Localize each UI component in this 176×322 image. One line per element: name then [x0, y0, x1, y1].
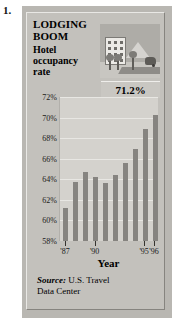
y-axis-labels: 60%62%64%66%68%70%72%58% — [33, 97, 57, 241]
bar — [113, 175, 118, 241]
list-number: 1. — [3, 4, 11, 16]
x-axis-tick — [65, 241, 66, 246]
bar — [153, 115, 158, 242]
value-callout: 71.2% — [101, 81, 160, 98]
source-text: U.S. Travel — [66, 275, 110, 285]
x-axis-tick-label: '90 — [90, 247, 99, 256]
source-note: Source: U.S. Travel Data Center — [37, 275, 159, 298]
y-axis-tick-label: 68% — [42, 134, 57, 143]
tree-foliage-icon — [114, 54, 122, 61]
bar — [143, 129, 148, 241]
figure-panel: LODGING BOOM Hotel occupancy rate — [26, 12, 165, 310]
x-axis-tick-label: '95 — [139, 247, 148, 256]
headline-line-1: LODGING — [33, 18, 99, 30]
bar — [133, 149, 138, 241]
y-axis-tick-label: 72% — [42, 93, 57, 102]
plot-area — [59, 97, 158, 241]
y-axis-tick-label: 60% — [42, 216, 57, 225]
tree-foliage-icon — [106, 54, 114, 61]
headline-line-5: rate — [33, 66, 99, 77]
y-axis-tick-label: 66% — [42, 154, 57, 163]
y-axis-tick-label: 64% — [42, 175, 57, 184]
x-axis-tick — [154, 241, 155, 246]
y-axis-tick-label: 58% — [42, 237, 57, 246]
source-line-2: Data Center — [37, 286, 80, 296]
headline-line-3: Hotel — [33, 44, 99, 55]
y-axis-tick-label: 62% — [42, 195, 57, 204]
bar-chart: 60%62%64%66%68%70%72%58% '87'90'95'96 Ye… — [33, 97, 160, 257]
x-axis-tick — [144, 241, 145, 246]
headline-line-2: BOOM — [33, 30, 99, 42]
figure-frame: LODGING BOOM Hotel occupancy rate — [22, 6, 172, 318]
bar — [123, 163, 128, 241]
bar — [83, 172, 88, 241]
x-axis-tick-label: '96 — [149, 247, 158, 256]
x-axis-tick-label: '87 — [60, 247, 69, 256]
road-shape — [118, 67, 160, 74]
hotel-street-scene-icon — [100, 24, 160, 78]
headline-line-4: occupancy — [33, 55, 99, 66]
bar — [103, 183, 108, 241]
bar — [93, 177, 98, 241]
source-prefix: Source: — [37, 275, 66, 285]
gridline — [60, 97, 158, 98]
y-axis-tick-label: 70% — [42, 113, 57, 122]
x-axis-tick — [95, 241, 96, 246]
car-wheel-icon — [152, 64, 155, 67]
tree-foliage-icon — [129, 51, 137, 58]
bar — [63, 208, 68, 241]
callout-value: 71.2% — [115, 84, 145, 96]
x-axis-title: Year — [59, 257, 158, 269]
bar — [73, 182, 78, 241]
headline-block: LODGING BOOM Hotel occupancy rate — [33, 18, 99, 77]
gridline — [60, 118, 158, 119]
tree-icon — [132, 56, 134, 70]
